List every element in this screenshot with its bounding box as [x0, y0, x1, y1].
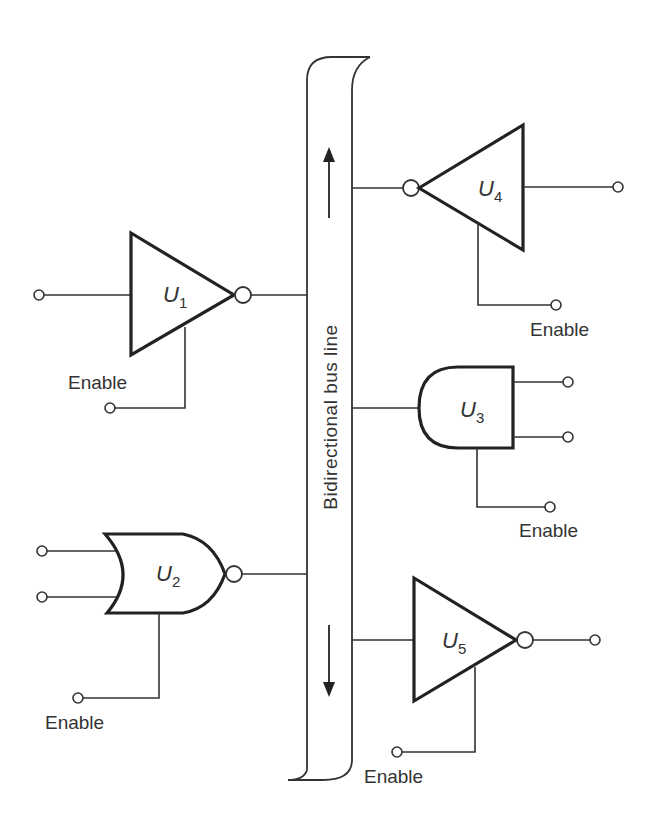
u2-enable-terminal[interactable]	[73, 693, 83, 703]
u1-enable-label: Enable	[68, 372, 127, 393]
u2-input-a-terminal[interactable]	[37, 546, 47, 556]
down-arrow-icon	[323, 625, 335, 697]
u5-enable-label: Enable	[364, 766, 423, 787]
bus-label: Bidirectional bus line	[320, 324, 341, 509]
u3-output-b-terminal[interactable]	[563, 432, 573, 442]
u1-input-terminal[interactable]	[34, 290, 44, 300]
u3-output-a-terminal[interactable]	[563, 377, 573, 387]
u2-enable-wire	[83, 613, 159, 698]
gate-u2: U2 Enable	[37, 534, 307, 733]
gate-u1: U1 Enable	[34, 233, 307, 413]
u4-buffer-symbol	[419, 125, 523, 250]
u3-enable-wire	[477, 448, 545, 507]
gate-u4: U4 Enable	[352, 125, 623, 340]
u1-enable-terminal[interactable]	[105, 403, 115, 413]
gate-u5: U5 Enable	[352, 578, 600, 787]
bus-diagram: Bidirectional bus line U1 Enable U2 Enab…	[0, 0, 660, 817]
u4-output-terminal[interactable]	[613, 182, 623, 192]
u5-output-bubble	[517, 632, 533, 648]
u2-output-bubble	[226, 566, 242, 582]
u4-enable-terminal[interactable]	[551, 300, 561, 310]
u5-output-terminal[interactable]	[590, 635, 600, 645]
u3-enable-label: Enable	[519, 520, 578, 541]
u3-enable-terminal[interactable]	[545, 502, 555, 512]
bus-bottom-curl	[288, 760, 352, 780]
u4-enable-label: Enable	[530, 319, 589, 340]
bidirectional-bus: Bidirectional bus line	[288, 57, 370, 780]
u1-output-bubble	[235, 287, 251, 303]
u2-enable-label: Enable	[45, 712, 104, 733]
u2-input-b-terminal[interactable]	[37, 592, 47, 602]
u5-enable-terminal[interactable]	[392, 747, 402, 757]
up-arrow-icon	[323, 147, 335, 218]
gate-u3: U3 Enable	[352, 367, 578, 541]
